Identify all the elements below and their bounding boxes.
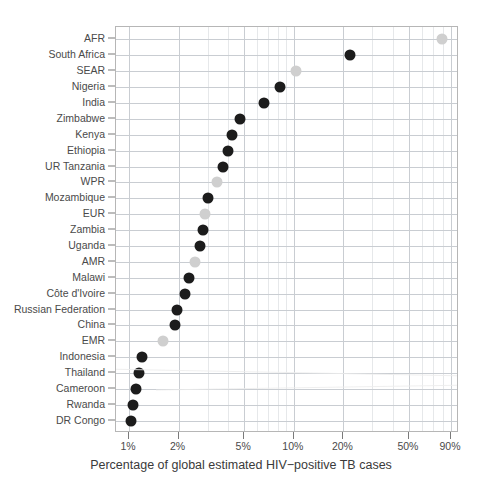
y-axis-tick-mark [108, 245, 115, 246]
data-point [345, 50, 356, 61]
y-axis-tick-mark [108, 419, 115, 420]
grid-line-horizontal [116, 135, 457, 136]
y-axis-tick-label: DR Congo [56, 414, 105, 425]
x-axis-tick-label: 1% [120, 440, 135, 453]
data-point [436, 34, 447, 45]
grid-line-horizontal [116, 294, 457, 295]
grid-line-horizontal [116, 230, 457, 231]
grid-line-horizontal [116, 246, 457, 247]
y-axis-tick-mark [108, 70, 115, 71]
data-point [226, 129, 237, 140]
y-axis-tick-mark [108, 229, 115, 230]
y-axis-tick-label: Cameroon [56, 383, 105, 394]
grid-line-horizontal [116, 357, 457, 358]
data-point [290, 66, 301, 77]
y-axis-tick-label: Zimbabwe [57, 112, 105, 123]
y-axis-tick-label: Russian Federation [14, 303, 105, 314]
grid-line-horizontal [116, 87, 457, 88]
y-axis-tick-mark [108, 165, 115, 166]
y-axis-tick-mark [108, 388, 115, 389]
y-axis-tick-mark [108, 276, 115, 277]
data-point [189, 256, 200, 267]
data-point [171, 304, 182, 315]
dot-plot-chart: AFRSouth AfricaSEARNigeriaIndiaZimbabweK… [0, 0, 482, 482]
y-axis-tick-mark [108, 133, 115, 134]
data-point [200, 209, 211, 220]
y-axis-tick-label: Mozambique [45, 192, 105, 203]
data-point [157, 336, 168, 347]
data-point [217, 161, 228, 172]
grid-line-horizontal [116, 71, 457, 72]
x-axis-tick-mark [342, 432, 343, 439]
grid-line-horizontal [116, 325, 457, 326]
grid-line-horizontal [116, 310, 457, 311]
grid-line-horizontal [116, 119, 457, 120]
y-axis-tick-label: AMR [82, 255, 105, 266]
data-point [259, 98, 270, 109]
y-axis-tick-label: AFR [84, 33, 105, 44]
x-axis-tick-label: 10% [282, 440, 303, 453]
data-point [202, 193, 213, 204]
grid-line-horizontal [116, 278, 457, 279]
y-axis-tick-label: WPR [81, 176, 106, 187]
plot-panel [115, 26, 458, 432]
y-axis-tick-mark [108, 260, 115, 261]
grid-line-horizontal [116, 55, 457, 56]
x-axis-tick-mark [128, 432, 129, 439]
x-axis-labels: 1%2%5%10%20%50%90% [0, 440, 482, 456]
x-axis-ticks [0, 432, 482, 440]
grid-line-horizontal [116, 182, 457, 183]
data-point [183, 272, 194, 283]
y-axis-tick-label: Kenya [75, 128, 105, 139]
y-axis-tick-mark [108, 213, 115, 214]
data-point [127, 399, 138, 410]
y-axis-tick-label: UR Tanzania [45, 160, 105, 171]
grid-line-horizontal [116, 103, 457, 104]
x-axis-tick-mark [408, 432, 409, 439]
x-axis-tick-label: 50% [397, 440, 418, 453]
grid-line-horizontal [116, 198, 457, 199]
data-point [126, 415, 137, 426]
y-axis-tick-mark [108, 356, 115, 357]
data-point [275, 82, 286, 93]
data-point [234, 113, 245, 124]
y-axis-tick-label: EUR [83, 208, 105, 219]
y-axis-tick-label: India [82, 97, 105, 108]
data-point [130, 384, 141, 395]
y-axis-tick-label: SEAR [76, 65, 105, 76]
x-axis-title: Percentage of global estimated HIV−posit… [0, 458, 482, 472]
data-point [197, 225, 208, 236]
x-axis-tick-label: 5% [236, 440, 251, 453]
data-point [223, 145, 234, 156]
y-axis-tick-mark [108, 149, 115, 150]
y-axis-tick-mark [108, 86, 115, 87]
grid-line-horizontal [116, 39, 457, 40]
y-axis-tick-label: Malawi [72, 271, 105, 282]
data-point [169, 320, 180, 331]
y-axis-tick-label: Côte d'Ivoire [46, 287, 105, 298]
data-point [195, 241, 206, 252]
y-axis-tick-mark [108, 340, 115, 341]
y-axis-tick-mark [108, 308, 115, 309]
y-axis-tick-label: Nigeria [72, 81, 105, 92]
y-axis-tick-label: Uganda [68, 240, 105, 251]
y-axis-tick-label: Ethiopia [67, 144, 105, 155]
x-axis-tick-mark [178, 432, 179, 439]
data-point [180, 288, 191, 299]
grid-line-horizontal [116, 262, 457, 263]
y-axis-tick-label: China [78, 319, 105, 330]
y-axis-tick-mark [108, 54, 115, 55]
y-axis-tick-mark [108, 324, 115, 325]
y-axis-tick-mark [108, 117, 115, 118]
grid-line-horizontal [116, 421, 457, 422]
y-axis-tick-label: EMR [82, 335, 105, 346]
x-axis-tick-mark [293, 432, 294, 439]
grid-line-horizontal [116, 151, 457, 152]
y-axis-tick-mark [108, 38, 115, 39]
y-axis-tick-mark [108, 197, 115, 198]
y-axis-tick-mark [108, 403, 115, 404]
x-axis-tick-mark [243, 432, 244, 439]
grid-line-horizontal [116, 214, 457, 215]
y-axis-tick-label: Zambia [70, 224, 105, 235]
x-axis-tick-mark [450, 432, 451, 439]
